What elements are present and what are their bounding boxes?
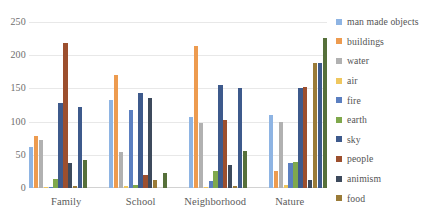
- bar: [129, 110, 133, 188]
- legend-label: people: [347, 153, 373, 164]
- bar: [53, 179, 57, 188]
- bar: [274, 171, 278, 188]
- bar: [189, 117, 193, 188]
- legend-swatch-icon: [336, 136, 342, 142]
- bar: [138, 93, 142, 188]
- legend-swatch-icon: [336, 78, 342, 84]
- legend-label: animism: [347, 173, 381, 184]
- bar: [194, 46, 198, 188]
- bar: [303, 87, 307, 188]
- bar: [269, 115, 273, 188]
- bar-group-family: [29, 22, 87, 188]
- y-axis: 250200150100500: [0, 0, 26, 192]
- y-tick-label: 50: [16, 150, 26, 160]
- legend-label: food: [347, 193, 365, 204]
- legend-label: water: [347, 55, 369, 66]
- y-tick-label: 0: [21, 183, 26, 193]
- legend-swatch-icon: [336, 38, 342, 44]
- bar: [124, 186, 128, 188]
- bar: [209, 181, 213, 188]
- bar-chart: 250200150100500 FamilySchoolNeighborhood…: [0, 0, 438, 224]
- bar: [284, 185, 288, 188]
- bar: [29, 147, 33, 188]
- bar: [293, 162, 297, 188]
- legend-item-water[interactable]: water: [336, 51, 438, 71]
- bar: [58, 103, 62, 188]
- bar: [49, 187, 53, 188]
- bar: [243, 151, 247, 188]
- bar: [238, 88, 242, 188]
- bar: [143, 175, 147, 188]
- legend-label: buildings: [347, 36, 384, 47]
- bar: [68, 163, 72, 188]
- bar: [288, 163, 292, 188]
- legend-swatch-icon: [336, 117, 342, 123]
- legend-label: air: [347, 75, 358, 86]
- y-tick-label: 150: [10, 83, 26, 93]
- legend-label: sky: [347, 134, 361, 145]
- chart-legend: man made objectsbuildingswaterairfireear…: [336, 12, 438, 208]
- bar: [199, 123, 203, 188]
- legend-item-earth[interactable]: earth: [336, 110, 438, 130]
- bar: [119, 152, 123, 188]
- bar-group-school: [109, 22, 167, 188]
- legend-swatch-icon: [336, 156, 342, 162]
- bar: [323, 38, 327, 188]
- x-tick-label-nature: Nature: [253, 196, 328, 207]
- bar: [204, 187, 208, 188]
- bar: [223, 120, 227, 188]
- x-tick-label-family: Family: [29, 196, 104, 207]
- bar: [233, 186, 237, 188]
- legend-item-air[interactable]: air: [336, 71, 438, 91]
- bar: [318, 63, 322, 188]
- bar-group-nature: [269, 22, 327, 188]
- legend-item-buildings[interactable]: buildings: [336, 32, 438, 52]
- x-tick-label-school: School: [104, 196, 179, 207]
- bar: [153, 180, 157, 188]
- bar: [308, 180, 312, 188]
- y-tick-label: 100: [10, 117, 26, 127]
- y-tick-label: 250: [10, 17, 26, 27]
- legend-swatch-icon: [336, 195, 342, 201]
- bar: [228, 165, 232, 188]
- legend-item-sky[interactable]: sky: [336, 130, 438, 150]
- legend-swatch-icon: [336, 97, 342, 103]
- legend-swatch-icon: [336, 176, 342, 182]
- bar: [39, 140, 43, 188]
- bar: [148, 98, 152, 188]
- legend-label: man made objects: [347, 16, 419, 27]
- legend-item-animism[interactable]: animism: [336, 169, 438, 189]
- bar: [114, 75, 118, 188]
- legend-swatch-icon: [336, 58, 342, 64]
- legend-item-man-made-objects[interactable]: man made objects: [336, 12, 438, 32]
- bar: [63, 43, 67, 188]
- bar: [78, 107, 82, 188]
- legend-item-people[interactable]: people: [336, 149, 438, 169]
- bar: [218, 85, 222, 188]
- legend-label: earth: [347, 114, 367, 125]
- bar: [163, 173, 167, 188]
- bar: [83, 160, 87, 188]
- bar: [279, 122, 283, 188]
- bar: [313, 63, 317, 188]
- bar-group-neighborhood: [189, 22, 247, 188]
- bar: [34, 136, 38, 188]
- bar: [298, 88, 302, 188]
- legend-label: fire: [347, 95, 361, 106]
- bar: [109, 100, 113, 188]
- plot-area: 250200150100500 FamilySchoolNeighborhood…: [0, 0, 332, 224]
- legend-swatch-icon: [336, 19, 342, 25]
- bar: [213, 171, 217, 188]
- legend-item-fire[interactable]: fire: [336, 90, 438, 110]
- bar: [133, 185, 137, 188]
- bar: [73, 186, 77, 188]
- y-tick-label: 200: [10, 50, 26, 60]
- legend-item-food[interactable]: food: [336, 188, 438, 208]
- x-axis: FamilySchoolNeighborhoodNature: [29, 196, 327, 207]
- bar-groups: [29, 22, 327, 188]
- bar: [44, 187, 48, 188]
- x-tick-label-neighborhood: Neighborhood: [178, 196, 253, 207]
